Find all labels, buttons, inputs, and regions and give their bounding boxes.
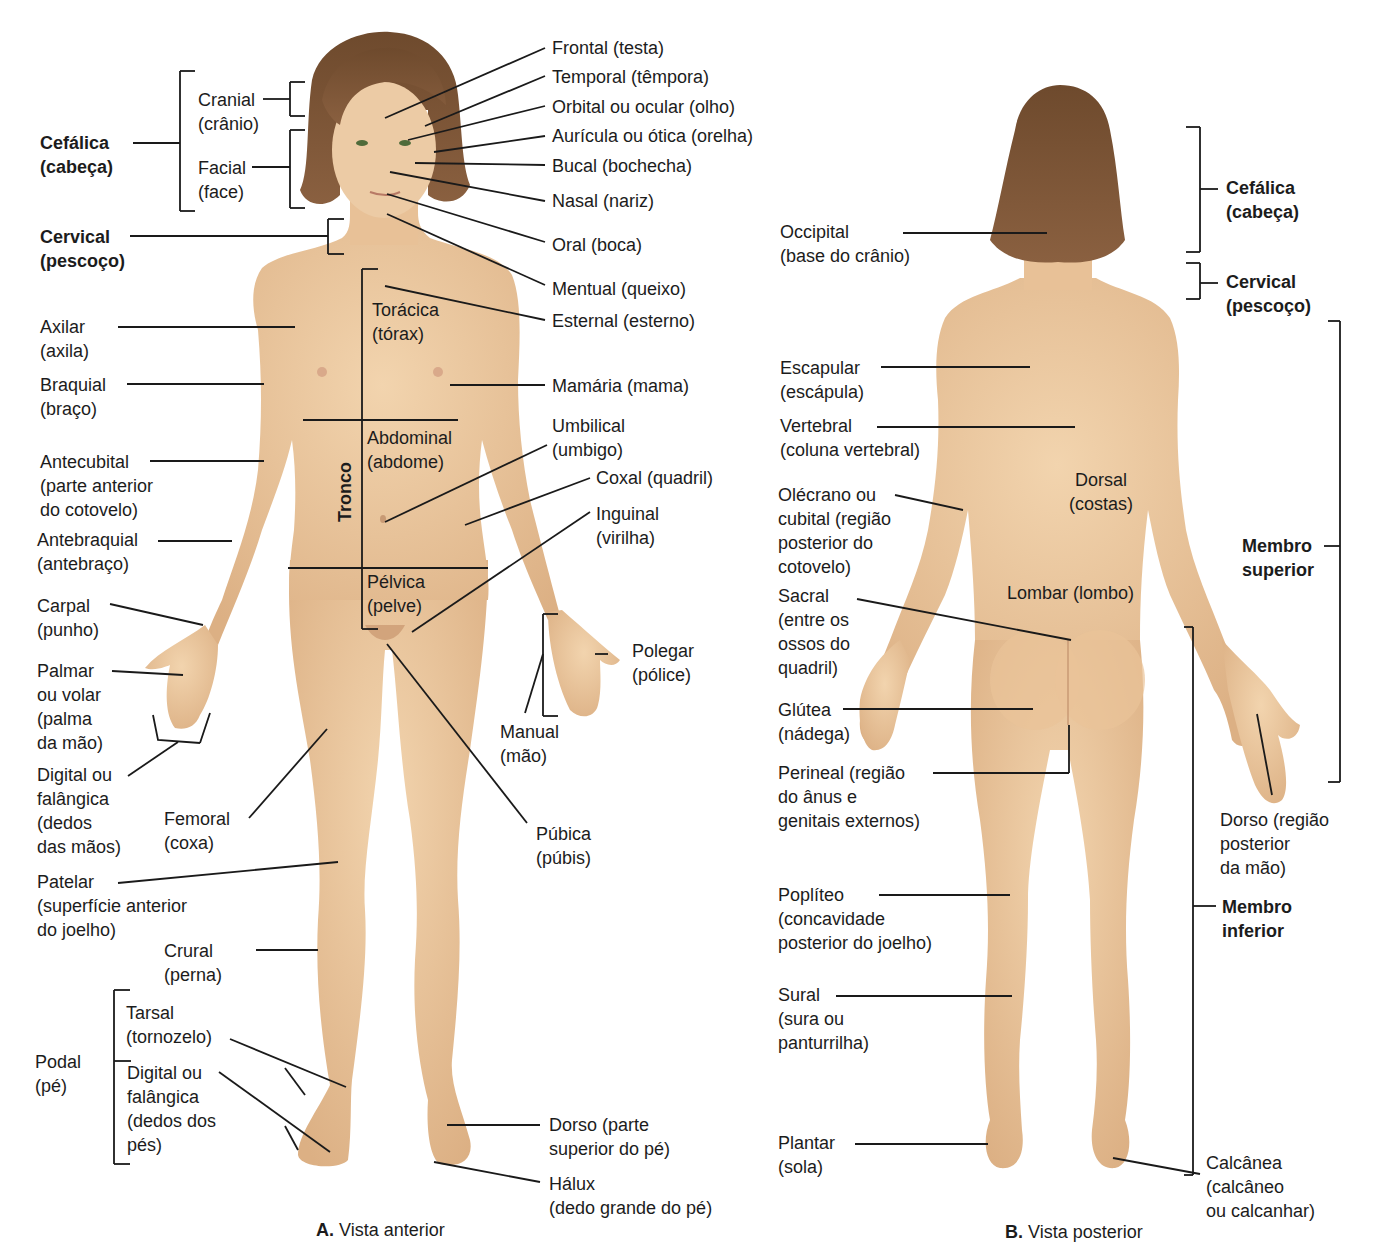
label-line: Braquial [40, 373, 106, 397]
label-membro_inf: Membroinferior [1222, 895, 1292, 943]
label-lombar: Lombar (lombo) [1007, 581, 1134, 605]
label-inguinal: Inguinal(virilha) [596, 502, 659, 550]
label-toracica: Torácica(tórax) [372, 298, 439, 346]
label-line: Temporal (têmpora) [552, 65, 709, 89]
label-sural: Sural(sura oupanturrilha) [778, 983, 869, 1055]
label-line: Orbital ou ocular (olho) [552, 95, 735, 119]
label-coxal: Coxal (quadril) [596, 466, 713, 490]
label-line: Nasal (nariz) [552, 189, 654, 213]
label-line: (coxa) [164, 831, 230, 855]
label-vertebral: Vertebral(coluna vertebral) [780, 414, 920, 462]
label-line: inferior [1222, 919, 1292, 943]
label-line: (concavidade [778, 907, 932, 931]
label-line: Cefálica [40, 131, 113, 155]
label-membro_sup: Membrosuperior [1242, 534, 1314, 582]
label-line: Polegar [632, 639, 694, 663]
label-esternal: Esternal (esterno) [552, 309, 695, 333]
label-line: Esternal (esterno) [552, 309, 695, 333]
label-braquial: Braquial(braço) [40, 373, 106, 421]
label-line: Palmar [37, 659, 103, 683]
label-line: superior do pé) [549, 1137, 670, 1161]
label-occipital: Occipital(base do crânio) [780, 220, 910, 268]
tronco-label: Tronco [335, 462, 355, 522]
label-line: da mão) [37, 731, 103, 755]
label-line: Pélvica [367, 570, 425, 594]
label-line: Escapular [780, 356, 864, 380]
label-line: posterior [1220, 832, 1329, 856]
label-line: Podal [35, 1050, 81, 1074]
label-popliteo: Poplíteo(concavidadeposterior do joelho) [778, 883, 932, 955]
label-dorso_mao: Dorso (regiãoposteriorda mão) [1220, 808, 1329, 880]
label-line: Lombar (lombo) [1007, 581, 1134, 605]
label-line: (axila) [40, 339, 89, 363]
label-femoral: Femoral(coxa) [164, 807, 230, 855]
label-line: (base do crânio) [780, 244, 910, 268]
label-manual: Manual(mão) [500, 720, 559, 768]
label-line: (entre os [778, 608, 850, 632]
label-line: Olécrano ou [778, 483, 891, 507]
label-line: (púbis) [536, 846, 591, 870]
label-line: Plantar [778, 1131, 835, 1155]
label-line: Vertebral [780, 414, 920, 438]
label-patelar: Patelar(superfície anteriordo joelho) [37, 870, 187, 942]
posterior-figure [860, 85, 1301, 1168]
label-line: (virilha) [596, 526, 659, 550]
label-line: Bucal (bochecha) [552, 154, 692, 178]
label-line: Sural [778, 983, 869, 1007]
label-line: Carpal [37, 594, 99, 618]
label-line: Perineal (região [778, 761, 920, 785]
label-nasal: Nasal (nariz) [552, 189, 654, 213]
leader-line [110, 604, 203, 625]
label-cervical: Cervical(pescoço) [40, 225, 125, 273]
label-line: (dedos dos [127, 1109, 216, 1133]
caption-posterior-letter: B. [1005, 1222, 1023, 1242]
label-temporal: Temporal (têmpora) [552, 65, 709, 89]
label-line: cotovelo) [778, 555, 891, 579]
label-line: (abdome) [367, 450, 452, 474]
label-line: Patelar [37, 870, 187, 894]
label-line: (sola) [778, 1155, 835, 1179]
label-line: (crânio) [198, 112, 259, 136]
leader-line [525, 654, 543, 713]
label-line: ou calcanhar) [1206, 1199, 1315, 1223]
label-line: (dedos [37, 811, 121, 835]
label-line: Manual [500, 720, 559, 744]
label-line: (tornozelo) [126, 1025, 212, 1049]
label-line: Aurícula ou ótica (orelha) [552, 124, 753, 148]
label-carpal: Carpal(punho) [37, 594, 99, 642]
label-dorso_pe: Dorso (partesuperior do pé) [549, 1113, 670, 1161]
label-palmar: Palmarou volar(palmada mão) [37, 659, 103, 755]
label-digital_mao: Digital oufalângica(dedosdas mãos) [37, 763, 121, 859]
label-line: do cotovelo) [40, 498, 153, 522]
label-antebraquial: Antebraquial(antebraço) [37, 528, 138, 576]
label-line: Femoral [164, 807, 230, 831]
label-line: Membro [1242, 534, 1314, 558]
label-crural: Crural(perna) [164, 939, 222, 987]
label-line: (superfície anterior [37, 894, 187, 918]
label-line: (cabeça) [1226, 200, 1299, 224]
label-line: Digital ou [127, 1061, 216, 1085]
label-line: Abdominal [367, 426, 452, 450]
label-plantar: Plantar(sola) [778, 1131, 835, 1179]
label-line: Cervical [1226, 270, 1311, 294]
label-frontal: Frontal (testa) [552, 36, 664, 60]
label-line: Cranial [198, 88, 259, 112]
label-line: posterior do [778, 531, 891, 555]
label-line: panturrilha) [778, 1031, 869, 1055]
label-line: (mão) [500, 744, 559, 768]
label-auricula: Aurícula ou ótica (orelha) [552, 124, 753, 148]
label-line: (nádega) [778, 722, 850, 746]
label-line: Umbilical [552, 414, 625, 438]
leader-line [200, 713, 210, 743]
label-line: (calcâneo [1206, 1175, 1315, 1199]
label-line: (pólice) [632, 663, 694, 687]
label-line: da mão) [1220, 856, 1329, 880]
label-umbilical: Umbilical(umbigo) [552, 414, 625, 462]
leader-line [285, 1068, 305, 1095]
label-sacral: Sacral(entre osossos doquadril) [778, 584, 850, 680]
label-line: Antecubital [40, 450, 153, 474]
label-line: Digital ou [37, 763, 121, 787]
label-line: (antebraço) [37, 552, 138, 576]
label-line: superior [1242, 558, 1314, 582]
label-glutea: Glútea(nádega) [778, 698, 850, 746]
